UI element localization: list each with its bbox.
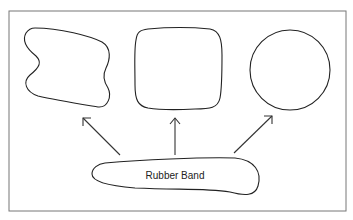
arrow-up-icon [170, 118, 180, 155]
rounded-square [135, 28, 222, 110]
diagram-canvas [0, 0, 353, 220]
frame-border [9, 11, 346, 211]
irregular-shape [24, 28, 109, 107]
circle-shape [250, 30, 330, 110]
arrow-right-icon [234, 116, 272, 153]
arrow-left-icon [83, 118, 120, 155]
rubber-band-label: Rubber Band [135, 170, 215, 181]
